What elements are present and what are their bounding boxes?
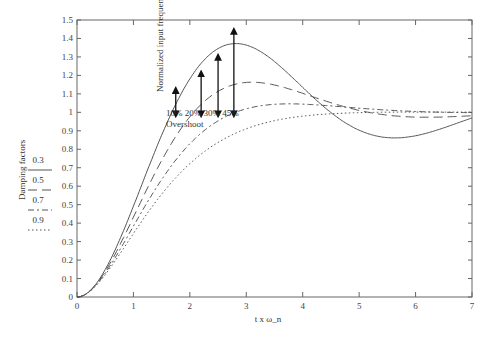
y-tick-label: 1.3 [62,52,74,62]
curve-damping-0.3 [77,44,472,297]
legend-label: 0.9 [32,215,44,225]
y-axis-ticks: 00.10.20.30.40.50.60.70.80.911.11.21.31.… [62,15,472,302]
legend-title: Damping factors [17,139,27,200]
curve-damping-0.9 [77,112,472,297]
y-tick-label: 0.9 [62,126,74,136]
y-tick-label: 0.3 [62,237,74,247]
step-response-chart: 00.10.20.30.40.50.60.70.80.911.11.21.31.… [0,0,497,343]
overshoot-percent-labels: 10% 20% 30% 45% [166,108,239,118]
x-axis-ticks: 01234567 [75,20,475,311]
y-tick-label: 1.4 [62,33,74,43]
y-tick-label: 1 [69,107,74,117]
legend-label: 0.3 [32,155,44,165]
x-tick-label: 2 [188,301,193,311]
curve-damping-0.5 [77,82,472,297]
legend-label: 0.7 [32,195,44,205]
y-tick-label: 1.5 [62,15,74,25]
overshoot-caption: Overshoot [166,119,204,129]
y-tick-label: 0.5 [62,200,74,210]
damping-curves [77,44,472,297]
x-tick-label: 1 [131,301,136,311]
x-tick-label: 5 [357,301,362,311]
x-tick-label: 4 [300,301,305,311]
y-axis-label: Normalized input frequency [155,0,165,92]
y-tick-label: 0.1 [62,274,73,284]
legend: Damping factors0.30.50.70.9 [17,139,52,230]
y-tick-label: 0.8 [62,144,74,154]
x-tick-label: 7 [470,301,475,311]
x-tick-label: 3 [244,301,249,311]
y-tick-label: 0 [69,292,74,302]
y-tick-label: 0.2 [62,255,73,265]
y-tick-label: 1.2 [62,70,73,80]
legend-label: 0.5 [32,175,44,185]
x-tick-label: 6 [413,301,418,311]
x-axis-label: t x ω_n [255,314,282,324]
y-tick-label: 0.6 [62,181,74,191]
x-tick-label: 0 [75,301,80,311]
y-tick-label: 1.1 [62,89,73,99]
y-tick-label: 0.4 [62,218,74,228]
y-tick-label: 0.7 [62,163,74,173]
